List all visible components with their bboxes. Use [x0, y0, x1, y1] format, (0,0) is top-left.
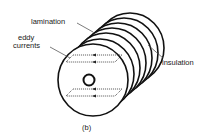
figure-caption: (b)	[82, 124, 91, 132]
lamination-rings	[58, 13, 164, 116]
eddy-currents-label-line2: currents	[13, 42, 40, 50]
insulation-label: insulation	[162, 59, 194, 67]
lamination-leader-line	[77, 23, 93, 32]
lamination-label: lamination	[31, 18, 65, 26]
eddy-currents-leader-line	[50, 47, 70, 58]
laminated-core-diagram: lamination eddy currents insulation (b)	[0, 0, 214, 140]
center-hole	[84, 75, 95, 86]
